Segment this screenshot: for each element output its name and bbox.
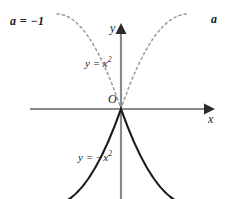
- curve-label-down: y = −x2: [78, 152, 112, 163]
- curve-label-down-base: y = −x: [78, 151, 108, 163]
- parameter-label-left: a = −1: [10, 15, 45, 27]
- curve-label-up: y = x2: [85, 58, 111, 69]
- origin-label: O: [108, 93, 117, 105]
- parabola-figure: a = −1 a y x O y = x2 y = −x2: [0, 0, 227, 199]
- curve-label-up-base: y = x: [85, 57, 108, 69]
- curve-label-down-exponent: 2: [108, 149, 112, 158]
- parameter-label-right: a: [211, 13, 217, 25]
- x-axis-label: x: [208, 113, 213, 125]
- y-axis-label: y: [110, 22, 115, 34]
- curve-label-up-exponent: 2: [108, 55, 112, 64]
- y-axis-arrow-icon: [116, 23, 127, 34]
